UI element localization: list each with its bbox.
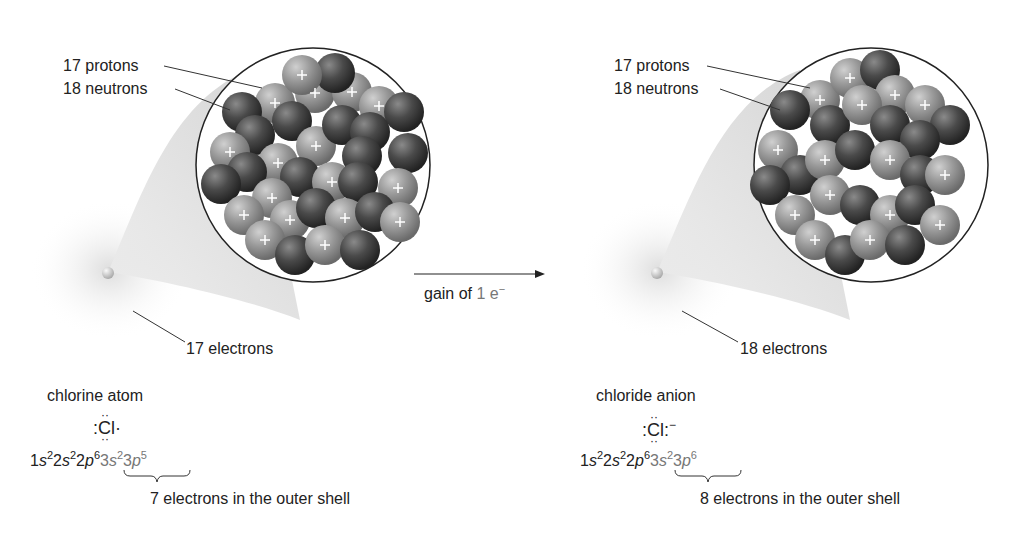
diagram-graphics: [0, 0, 1011, 539]
neutrons-label: 18 neutrons: [63, 80, 148, 98]
species-name: chloride anion: [596, 387, 696, 405]
outer-shell-brace-left: [124, 470, 190, 482]
lone-electron: ·: [115, 418, 121, 438]
outer-shell-note: 7 electrons in the outer shell: [150, 490, 350, 508]
arrow-label: gain of 1 e−: [424, 283, 505, 303]
outer-shell-note: 8 electrons in the outer shell: [700, 490, 900, 508]
neutrons-label: 18 neutrons: [614, 80, 699, 98]
atom-dot: [102, 267, 114, 279]
protons-label: 17 protons: [63, 57, 139, 75]
electrons-label: 17 electrons: [186, 340, 273, 358]
outer-shell-brace-right: [675, 470, 741, 482]
electron-configuration-left: 1s22s22p63s23p5: [30, 452, 147, 470]
lewis-structure-right: : Cl ·· ·· :−: [642, 418, 676, 441]
protons-label: 17 protons: [614, 57, 690, 75]
charge-sign: −: [669, 418, 676, 432]
electrons-label: 18 electrons: [740, 340, 827, 358]
reaction-arrow: [414, 270, 545, 278]
electron-configuration-right: 1s22s22p63s23p6: [580, 452, 697, 470]
species-name: chlorine atom: [47, 387, 143, 405]
atom-dot: [651, 267, 663, 279]
lewis-structure-left: : Cl ·· ·· ·: [93, 418, 121, 439]
